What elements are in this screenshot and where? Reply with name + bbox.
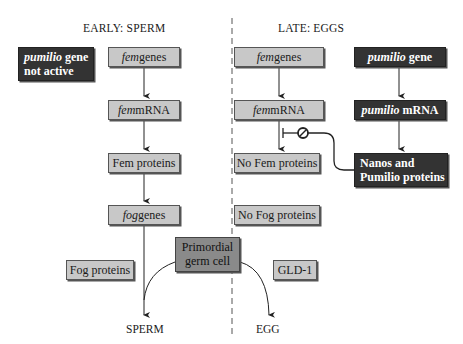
no-fog-proteins-box: No Fog proteins: [234, 205, 320, 225]
header-early: EARLY: SPERM: [83, 22, 165, 34]
sperm-label: SPERM: [126, 323, 164, 335]
early-fem-genes-box: fem genes: [108, 47, 180, 67]
gld1-box: GLD-1: [273, 260, 317, 280]
fem-proteins-box: Fem proteins: [108, 153, 180, 173]
primordial-germ-cell-box: Primordial germ cell: [175, 237, 240, 272]
no-fem-proteins-box: No Fem proteins: [234, 153, 320, 173]
late-fem-mrna-box: fem mRNA: [234, 100, 324, 120]
fog-genes-box: fog genes: [108, 205, 180, 225]
pumilio-gene-box: pumilio gene: [354, 47, 446, 67]
early-fem-mrna-box: fem mRNA: [108, 100, 180, 120]
nanos-pumilio-proteins-box: Nanos and Pumilio proteins: [354, 153, 448, 187]
egg-label: EGG: [256, 323, 280, 335]
pumilio-inactive-box: pumilio gene not active: [18, 47, 94, 81]
late-fem-genes-box: fem genes: [234, 47, 324, 67]
header-late: LATE: EGGS: [278, 22, 344, 34]
fog-proteins-box: Fog proteins: [66, 260, 134, 280]
pumilio-mrna-box: pumilio mRNA: [354, 100, 446, 120]
